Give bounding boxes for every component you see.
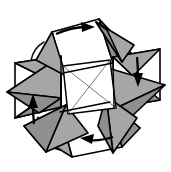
pinwheel-diagram: Pinwheel of four folded envelope modules…: [0, 0, 171, 172]
figure-container: Pinwheel of four folded envelope modules…: [0, 0, 171, 172]
